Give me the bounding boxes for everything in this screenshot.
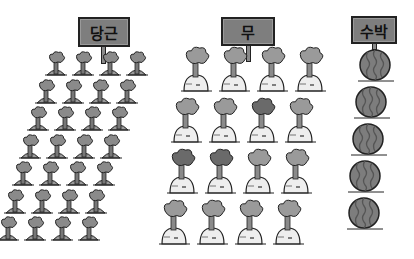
- carrot-icon: [16, 133, 44, 161]
- radish-sign: 무: [221, 17, 275, 46]
- carrot-icon: [75, 215, 103, 243]
- radish-icon: [240, 147, 276, 197]
- carrot-icon: [86, 78, 114, 106]
- radish-icon: [164, 147, 200, 197]
- carrot-icon: [97, 133, 125, 161]
- carrot-icon: [59, 78, 87, 106]
- carrot-icon: [42, 50, 70, 78]
- carrot-icon: [123, 50, 151, 78]
- carrot-icon: [105, 105, 133, 133]
- carrot-icon: [21, 215, 49, 243]
- radish-sign-label: 무: [241, 21, 255, 42]
- carrot-icon: [113, 78, 141, 106]
- watermelon-icon: [356, 48, 396, 84]
- radish-icon: [244, 96, 280, 146]
- radish-icon: [270, 198, 306, 248]
- carrot-icon: [48, 215, 76, 243]
- radish-icon: [292, 45, 328, 95]
- carrot-icon: [24, 105, 52, 133]
- radish-icon: [156, 198, 192, 248]
- radish-icon: [254, 45, 290, 95]
- carrot-icon: [55, 188, 83, 216]
- watermelon-sign: 수박: [351, 16, 397, 44]
- radish-icon: [216, 45, 252, 95]
- carrot-icon: [51, 105, 79, 133]
- radish-icon: [178, 45, 214, 95]
- watermelon-sign-label: 수박: [360, 20, 388, 41]
- watermelon-icon: [346, 159, 386, 195]
- carrot-icon: [96, 50, 124, 78]
- carrot-icon: [32, 78, 60, 106]
- carrot-icon: [0, 215, 22, 243]
- carrot-icon: [36, 160, 64, 188]
- carrot-icon: [90, 160, 118, 188]
- carrot-icon: [1, 188, 29, 216]
- carrot-icon: [69, 50, 97, 78]
- carrot-icon: [78, 105, 106, 133]
- watermelon-icon: [352, 85, 392, 121]
- watermelon-icon: [349, 122, 389, 158]
- radish-icon: [194, 198, 230, 248]
- carrot-icon: [70, 133, 98, 161]
- watermelon-icon: [345, 196, 385, 232]
- carrot-icon: [82, 188, 110, 216]
- radish-icon: [202, 147, 238, 197]
- carrot-icon: [28, 188, 56, 216]
- radish-icon: [232, 198, 268, 248]
- carrot-icon: [63, 160, 91, 188]
- radish-icon: [282, 96, 318, 146]
- carrot-sign-label: 당근: [90, 22, 118, 43]
- radish-icon: [168, 96, 204, 146]
- carrot-sign: 당근: [78, 17, 130, 47]
- carrot-icon: [9, 160, 37, 188]
- carrot-icon: [43, 133, 71, 161]
- radish-icon: [206, 96, 242, 146]
- radish-icon: [278, 147, 314, 197]
